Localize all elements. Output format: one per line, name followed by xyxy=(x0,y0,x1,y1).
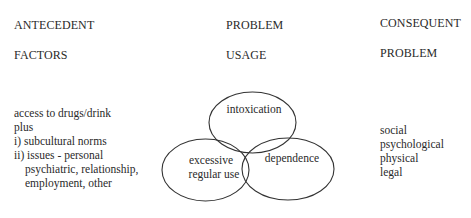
consequent-problems-list: social psychological physical legal xyxy=(380,123,444,179)
venn-label-dependence: dependence xyxy=(260,151,324,165)
consequent-item: physical xyxy=(380,151,444,165)
ellipse-dependence xyxy=(242,138,334,200)
venn-label-regular-use: regular use xyxy=(182,167,246,181)
consequent-item: psychological xyxy=(380,137,444,151)
venn-label-excessive: excessive xyxy=(182,153,240,167)
consequent-item: social xyxy=(380,123,444,137)
venn-label-intoxication: intoxication xyxy=(222,102,286,116)
consequent-item: legal xyxy=(380,165,444,179)
